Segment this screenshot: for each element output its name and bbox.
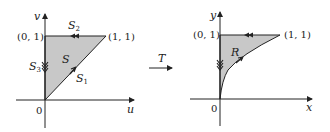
s3-label: S3 [29,60,41,74]
point-0-1-label: (0, 1) [17,31,44,42]
s1-label: S1 [76,72,88,86]
region-s-label: S [62,53,70,66]
s2-label: S2 [68,19,80,33]
x-axis-label: x [306,101,313,114]
y-axis-label: y [209,9,217,22]
region-r-fill [220,35,280,99]
transformation-diagram: v u 0 (0, 1) (1, 1) S S1 S2 S3 T y x 0 (… [0,0,330,132]
origin-label-right: 0 [211,103,217,114]
v-axis-label: v [34,10,41,23]
right-xy-plane: y x 0 (0, 1) (1, 1) R [190,9,313,126]
u-axis-label: u [127,103,134,116]
transform-t: T [149,52,172,68]
transform-label: T [158,52,167,65]
origin-label: 0 [36,105,42,116]
left-uv-plane: v u 0 (0, 1) (1, 1) S S1 S2 S3 [16,10,135,128]
point-0-1-label-right: (0, 1) [193,29,220,40]
region-r-label: R [230,46,239,59]
point-1-1-label: (1, 1) [108,31,135,42]
point-1-1-label-right: (1, 1) [284,29,311,40]
